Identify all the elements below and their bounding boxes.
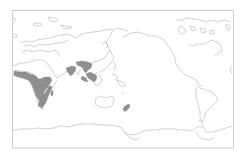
map-canvas bbox=[0, 0, 245, 156]
east-asia-coastline bbox=[94, 32, 160, 112]
eurasia-africa-coastline bbox=[13, 17, 128, 108]
range-india bbox=[66, 66, 76, 76]
world-distribution-map bbox=[0, 0, 245, 156]
range-sumatra-java bbox=[81, 76, 88, 82]
antarctica-coastline bbox=[13, 120, 232, 140]
range-new-zealand bbox=[123, 104, 130, 111]
americas-coastline bbox=[160, 18, 232, 122]
range-madagascar bbox=[51, 90, 53, 96]
range-mainland-southeast-asia bbox=[76, 61, 92, 73]
